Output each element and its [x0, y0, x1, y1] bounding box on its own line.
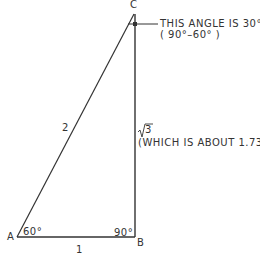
side-bc-note: (WHICH IS ABOUT 1.73) — [138, 137, 260, 148]
vertex-c-label: C — [130, 0, 137, 10]
angle-c-annotation-line2: ( 90°–60° ) — [160, 29, 220, 40]
angle-c-annotation-line1: THIS ANGLE IS 30° — [160, 18, 260, 29]
vertex-b-label: B — [137, 237, 144, 248]
side-ac — [17, 14, 134, 237]
vertex-a-label: A — [7, 231, 14, 242]
side-ab-length: 1 — [76, 244, 83, 255]
side-ac-length: 2 — [62, 122, 69, 133]
triangle-diagram: C THIS ANGLE IS 30° ( 90°–60° ) 2 3 (WHI… — [0, 0, 260, 259]
angle-c-marker — [133, 22, 137, 26]
angle-b-label: 90° — [114, 227, 133, 238]
side-bc-length-digit: 3 — [145, 124, 152, 135]
angle-a-label: 60° — [23, 226, 42, 237]
triangle-drawing — [0, 0, 260, 259]
